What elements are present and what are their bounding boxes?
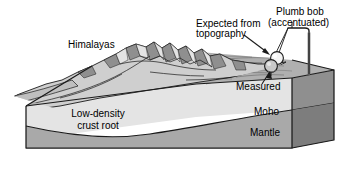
label-moho: Moho	[254, 106, 279, 117]
measured-bob-highlight	[267, 62, 271, 66]
label-plumb-line2: (accentuated)	[268, 17, 329, 28]
label-expected-line2: topography	[196, 28, 246, 39]
expected-bob-highlight	[273, 54, 277, 58]
label-mantle: Mantle	[250, 127, 280, 138]
label-measured: Measured	[236, 81, 280, 92]
diagram-canvas: Himalayas Expected from topography Plumb…	[0, 0, 351, 170]
label-low-density-line1: Low-density	[71, 108, 124, 119]
label-low-density-line2: crust root	[77, 120, 119, 131]
label-plumb-line1: Plumb bob	[276, 6, 324, 17]
block-right-face	[292, 70, 334, 148]
block-diagram-figure: Himalayas Expected from topography Plumb…	[0, 0, 351, 170]
label-himalayas: Himalayas	[68, 39, 115, 50]
